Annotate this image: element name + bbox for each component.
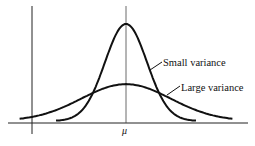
- annotation-large-variance: Large variance: [181, 82, 244, 93]
- normal-distribution-plot: Small variance Large variance μ: [0, 0, 255, 146]
- annotation-arrow-large: [167, 86, 180, 95]
- x-tick-label-mu: μ: [121, 125, 127, 136]
- chart: Small variance Large variance μ: [0, 0, 255, 146]
- annotation-small-variance: Small variance: [163, 57, 226, 68]
- annotation-arrow-small: [150, 62, 162, 70]
